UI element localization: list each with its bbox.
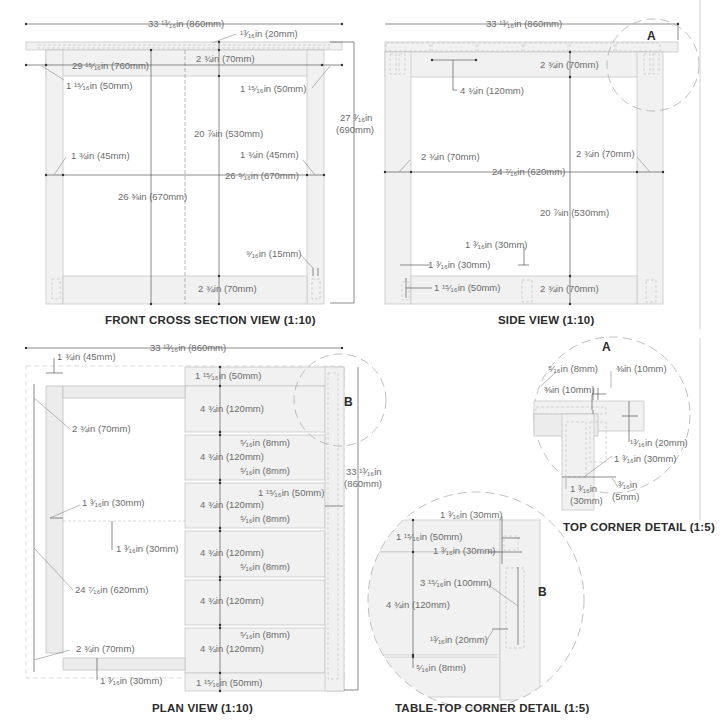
detail-b-dim-tongue-20: ¹³⁄₁₆in (20mm): [430, 634, 488, 645]
detail-a-marker: A: [602, 340, 611, 354]
front-dim-top-thickness: ¹³⁄₁₆in (20mm): [240, 28, 298, 39]
front-view-caption: FRONT CROSS SECTION VIEW (1:10): [105, 314, 316, 326]
plan-leg-left: [46, 386, 63, 653]
front-dim-stretcher-height: 2 ¾in (70mm): [198, 283, 257, 294]
detail-b-dim-end-50: 1 ¹⁵⁄₁₆in (50mm): [396, 531, 462, 542]
front-leg-left: [46, 50, 63, 304]
plan-dim-leg-depth: 2 ¾in (70mm): [72, 423, 131, 434]
plan-view: B 33 ¹³⁄₁₆in (860mm) 1 ¾in (45mm) 2 ¾in …: [25, 342, 386, 714]
front-dim-inner-width: 29 ¹⁵⁄₁₆in (760mm): [72, 60, 149, 71]
detail-b-dim-top-30: 1 ³⁄₁₆in (30mm): [440, 509, 502, 520]
tabletop-corner-detail-caption: TABLE-TOP CORNER DETAIL (1:5): [395, 702, 590, 714]
plan-dim-slat-3: 4 ¾in (120mm): [200, 499, 264, 510]
front-dim-overall-height: 27 ³⁄₁₆in: [340, 112, 372, 123]
side-dim-tenon-height: 1 ¹⁵⁄₁₆in (50mm): [434, 282, 500, 293]
plan-dim-overall-width: 33 ¹³⁄₁₆in (860mm): [150, 342, 226, 353]
detail-b-dim-inset-30: 1 ³⁄₁₆in (30mm): [433, 545, 495, 556]
plan-detail-marker-b: B: [344, 395, 353, 409]
side-dim-stretcher-height: 2 ¾in (70mm): [540, 283, 599, 294]
detail-b-dim-tongue-100: 3 ¹⁵⁄₁₆in (100mm): [420, 577, 492, 588]
side-view-caption: SIDE VIEW (1:10): [498, 314, 595, 326]
plan-dim-between-legs: 24 ⁷⁄₁₆in (620mm): [75, 584, 148, 595]
plan-view-caption: PLAN VIEW (1:10): [152, 702, 253, 714]
plan-dim-gap-3: ⁵⁄₁₆in (8mm): [240, 513, 290, 524]
detail-a-dim-gap-5: ³⁄₁₆in: [618, 479, 637, 490]
plan-stretcher-top: [63, 386, 185, 398]
plan-dim-gap-1: ⁵⁄₁₆in (8mm): [240, 437, 290, 448]
plan-dim-overall-depth: 33 ¹³⁄₁₆in: [346, 466, 382, 477]
plan-dim-slat-1: 4 ¾in (120mm): [200, 403, 264, 414]
side-leg-left: [385, 52, 411, 304]
detail-a-dim-thickness: ¹³⁄₁₆in (20mm): [630, 437, 688, 448]
plan-dim-gap-5: ⁵⁄₁₆in (8mm): [240, 629, 290, 640]
detail-a-dim-tenon-30: 1 ³⁄₁₆in (30mm): [614, 453, 676, 464]
plan-dim-side-offset: 1 ¹⁵⁄₁₆in (50mm): [258, 487, 324, 498]
front-dim-apron-height: 2 ¾in (70mm): [196, 53, 255, 64]
side-tabletop: [385, 42, 678, 52]
plan-dim-gap-2: ⁵⁄₁₆in (8mm): [240, 465, 290, 476]
front-dim-inner-span: 26 ⅜in (670mm): [118, 191, 187, 202]
detail-a-dim-gap-5-mm: (5mm): [612, 491, 639, 502]
side-dim-mortise-width: 1 ³⁄₁₆in (30mm): [465, 239, 527, 250]
front-tabletop: [26, 42, 342, 50]
side-view: A 33 ¹³⁄₁₆in (860mm) 2 ¾in (70mm) 4 ¾in …: [384, 18, 699, 326]
front-leg-right: [307, 50, 324, 304]
plan-stretcher-bottom: [63, 658, 185, 670]
detail-b-dim-gap-8: ⁵⁄₁₆in (8mm): [416, 662, 466, 673]
plan-dim-bottom-offset: 1 ³⁄₁₆in (30mm): [100, 675, 162, 686]
plan-dim-overall-depth-mm: (860mm): [344, 478, 382, 489]
plan-dim-leg-width: 1 ¾in (45mm): [57, 351, 116, 362]
top-corner-detail: A ⁵⁄₁₆in (8mm) ⅜in (10mm) ⅜in (10mm) ¹³⁄…: [534, 337, 715, 533]
detail-a-dim-tenon-30b-mm: (30mm): [570, 495, 603, 506]
side-dim-overall-width: 33 ¹³⁄₁₆in (860mm): [486, 18, 562, 29]
plan-dim-end-board-bottom: 1 ¹⁵⁄₁₆in (50mm): [196, 677, 262, 688]
top-corner-detail-caption: TOP CORNER DETAIL (1:5): [563, 521, 715, 533]
side-dim-apron-height: 2 ¾in (70mm): [540, 59, 599, 70]
plan-dim-slat-2: 4 ¾in (120mm): [200, 451, 264, 462]
front-dim-overall-height-mm: (690mm): [336, 124, 374, 135]
plan-dim-slat-4: 4 ¾in (120mm): [200, 547, 264, 558]
plan-dim-leg-depth-bottom: 2 ¾in (70mm): [76, 643, 135, 654]
tabletop-corner-detail: B 1 ³⁄₁₆in (30mm) 1 ¹⁵⁄₁₆in (50mm) 1 ³⁄₁…: [360, 492, 590, 714]
side-apron: [385, 52, 648, 77]
technical-drawing-sheet: 33 ¹³⁄₁₆in (860mm) ¹³⁄₁₆in (20mm) 29 ¹⁵⁄…: [0, 0, 728, 724]
plan-dim-slat-6: 4 ¾in (120mm): [200, 643, 264, 654]
front-dim-left-leg: 1 ¾in (45mm): [71, 150, 130, 161]
front-dim-right-leg: 1 ¾in (45mm): [240, 149, 299, 160]
detail-b-marker: B: [538, 585, 547, 599]
side-dim-right-leg: 2 ¾in (70mm): [576, 148, 635, 159]
detail-a-dim-gap-10b: ⅜in (10mm): [616, 363, 667, 374]
front-dim-left-offset: 1 ¹⁵⁄₁₆in (50mm): [66, 80, 132, 91]
front-dim-overall-width: 33 ¹³⁄₁₆in (860mm): [148, 18, 224, 29]
detail-a-dim-gap-8: ⁵⁄₁₆in (8mm): [548, 363, 598, 374]
front-dim-tenon-gap: ⁹⁄₁₆in (15mm): [246, 248, 301, 259]
side-detail-marker-a: A: [647, 29, 656, 43]
front-dim-between-legs: 26 ⁵⁄₁₆in (670mm): [225, 170, 299, 181]
plan-dim-slat-5: 4 ¾in (120mm): [200, 595, 264, 606]
side-dim-slat-width: 4 ¾in (120mm): [460, 85, 524, 96]
front-cross-section-view: 33 ¹³⁄₁₆in (860mm) ¹³⁄₁₆in (20mm) 29 ¹⁵⁄…: [25, 18, 374, 326]
plan-dim-stretcher-offset: 1 ³⁄₁₆in (30mm): [82, 497, 144, 508]
side-dim-leg-gap-height: 20 ⅞in (530mm): [540, 207, 609, 218]
plan-dim-end-board-top: 1 ¹⁵⁄₁₆in (50mm): [195, 370, 261, 381]
side-dim-left-leg: 2 ¾in (70mm): [421, 151, 480, 162]
plan-dim-gap-4: ⁵⁄₁₆in (8mm): [240, 561, 290, 572]
front-dim-leg-gap-height: 20 ⅞in (530mm): [194, 128, 263, 139]
side-dim-leg-offset: 1 ³⁄₁₆in (30mm): [428, 259, 490, 270]
detail-a-dim-tenon-30b: 1 ³⁄₁₆in: [570, 483, 597, 494]
plan-dim-stretcher-inset: 1 ³⁄₁₆in (30mm): [116, 543, 178, 554]
side-dim-between-legs: 24 ⁷⁄₁₆in (620mm): [492, 166, 565, 177]
detail-a-dim-gap-10a: ⅜in (10mm): [544, 384, 595, 395]
side-leg-right: [637, 52, 663, 304]
detail-b-side-rail: [500, 520, 540, 700]
front-dim-right-offset: 1 ¹⁵⁄₁₆in (50mm): [240, 83, 306, 94]
detail-b-dim-slat-120: 4 ¾in (120mm): [386, 599, 450, 610]
